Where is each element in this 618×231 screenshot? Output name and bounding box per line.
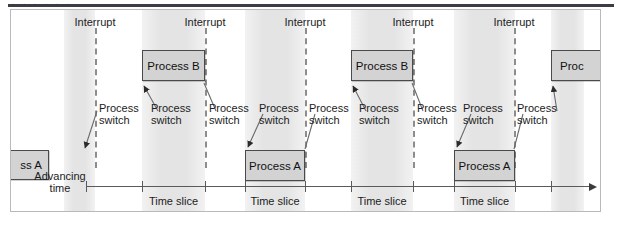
process-switch-label: Processswitch (359, 102, 399, 126)
process-switch-line2: switch (463, 114, 503, 126)
process-switch-line1: Process (359, 102, 399, 114)
axis-line (86, 186, 589, 187)
process-switch-line1: Process (259, 102, 299, 114)
process-box: Process B (142, 50, 205, 81)
interrupt-label: Interrupt (484, 16, 544, 28)
process-switch-line2: switch (259, 114, 299, 126)
advancing-time-line1: Advancing (29, 170, 91, 182)
process-box-label: Process B (356, 60, 408, 72)
process-switch-line2: switch (309, 114, 349, 126)
process-switch-line2: switch (359, 114, 399, 126)
advancing-time-line2: time (29, 182, 91, 194)
process-switch-line1: Process (99, 102, 139, 114)
interrupt-dashed-line (413, 28, 415, 168)
interrupt-dashed-line (305, 28, 307, 168)
process-switch-line1: Process (309, 102, 349, 114)
process-box-label: Proc (552, 60, 584, 72)
process-box: Proc (551, 50, 601, 81)
process-box-label: Process B (147, 60, 199, 72)
time-slice-label: Time slice (454, 195, 515, 207)
axis-tick (551, 181, 552, 192)
process-box: Process A (245, 150, 305, 181)
time-slice-label: Time slice (351, 195, 413, 207)
process-switch-line1: Process (151, 102, 191, 114)
process-switch-label: Processswitch (517, 102, 557, 126)
axis-tick (305, 181, 306, 192)
process-switch-label: Processswitch (99, 102, 139, 126)
axis-tick (245, 181, 246, 192)
top-rule (8, 4, 614, 7)
axis-tick (351, 181, 352, 192)
interrupt-label: Interrupt (275, 16, 335, 28)
process-switch-line2: switch (151, 114, 191, 126)
process-switch-label: Processswitch (209, 102, 249, 126)
advancing-time-label: Advancing time (29, 170, 91, 194)
process-switch-label: Processswitch (417, 102, 457, 126)
interrupt-label: Interrupt (383, 16, 443, 28)
axis-tick (205, 181, 206, 192)
axis-tick (454, 181, 455, 192)
process-switch-line2: switch (99, 114, 139, 126)
interrupt-label: Interrupt (65, 16, 125, 28)
interrupt-dashed-line (205, 28, 207, 168)
figure-root: · · · · · · InterruptInterruptInterruptI… (0, 0, 618, 231)
process-switch-line1: Process (517, 102, 557, 114)
process-box-label: Process A (459, 160, 511, 172)
figure-frame: InterruptInterruptInterruptInterruptInte… (10, 9, 601, 212)
process-switch-line2: switch (417, 114, 457, 126)
process-switch-line2: switch (517, 114, 557, 126)
axis-tick (515, 181, 516, 192)
interrupt-dashed-line (95, 28, 97, 168)
process-switch-line1: Process (417, 102, 457, 114)
axis-tick (413, 181, 414, 192)
process-box: Process B (351, 50, 413, 81)
process-switch-line2: switch (209, 114, 249, 126)
process-switch-label: Processswitch (259, 102, 299, 126)
process-box: Process A (454, 150, 515, 181)
interrupt-label: Interrupt (175, 16, 235, 28)
process-switch-line1: Process (209, 102, 249, 114)
process-switch-label: Processswitch (151, 102, 191, 126)
axis-tick (142, 181, 143, 192)
process-box-label: Process A (249, 160, 301, 172)
axis-arrowhead (589, 183, 597, 191)
time-slice-label: Time slice (142, 195, 205, 207)
process-switch-label: Processswitch (309, 102, 349, 126)
process-switch-label: Processswitch (463, 102, 503, 126)
interrupt-dashed-line (514, 28, 516, 168)
time-slice-label: Time slice (245, 195, 305, 207)
process-switch-line1: Process (463, 102, 503, 114)
